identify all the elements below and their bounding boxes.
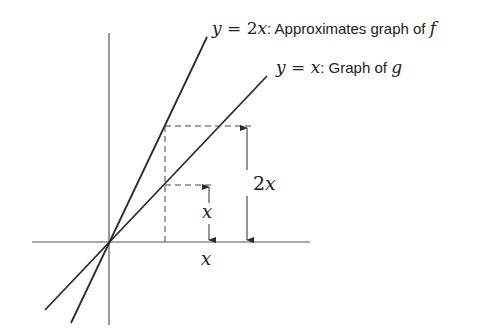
eq-rhs-var: x xyxy=(258,18,268,38)
fn-name: f xyxy=(430,18,436,38)
label-rise-x: x xyxy=(202,201,212,222)
label-text: Approximates graph of xyxy=(271,20,429,37)
label-line-x: y = x: Graph of g xyxy=(276,57,402,77)
eq-rhs: x xyxy=(311,57,321,77)
eq-sign: = xyxy=(222,18,247,38)
eq-rhs: 2 xyxy=(247,18,258,38)
coef: 2 xyxy=(253,172,265,194)
eq-sign: = xyxy=(286,57,311,77)
label-line-2x: y = 2x: Approximates graph of f xyxy=(212,18,436,38)
fn-name: g xyxy=(391,57,402,77)
line-y-equals-2x xyxy=(71,37,207,323)
var: x xyxy=(265,172,276,194)
diagram-canvas xyxy=(0,0,494,334)
eq-y: y xyxy=(276,57,286,77)
line-y-equals-x xyxy=(45,76,267,310)
label-rise-2x: 2x xyxy=(253,172,276,195)
eq-y: y xyxy=(212,18,222,38)
label-text: Graph of xyxy=(324,59,391,76)
label-run-x: x xyxy=(201,248,211,269)
